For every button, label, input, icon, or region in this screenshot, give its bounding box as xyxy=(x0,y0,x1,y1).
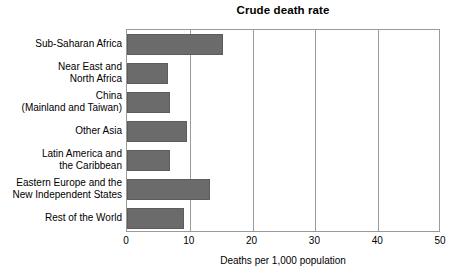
bars-layer xyxy=(127,30,439,231)
bar xyxy=(127,208,184,229)
x-tick-label: 10 xyxy=(183,234,194,247)
plot-area xyxy=(126,29,440,232)
category-label: Near East and North Africa xyxy=(0,61,122,84)
x-tick-label: 20 xyxy=(246,234,257,247)
category-label: Sub-Saharan Africa xyxy=(0,38,122,50)
category-label: Eastern Europe and the New Independent S… xyxy=(0,177,122,200)
crude-death-rate-chart: Crude death rate Sub-Saharan AfricaNear … xyxy=(0,0,454,275)
bar xyxy=(127,34,223,55)
x-tick-label: 40 xyxy=(372,234,383,247)
chart-title: Crude death rate xyxy=(126,3,440,17)
x-tick-label: 0 xyxy=(123,234,129,247)
category-label: China (Mainland and Taiwan) xyxy=(0,90,122,113)
bar xyxy=(127,150,170,171)
x-axis-title: Deaths per 1,000 population xyxy=(126,254,440,267)
bar xyxy=(127,63,168,84)
bar xyxy=(127,121,187,142)
bar xyxy=(127,92,170,113)
category-axis-labels: Sub-Saharan AfricaNear East and North Af… xyxy=(0,29,122,232)
x-axis-tick-labels: 01020304050 xyxy=(126,234,440,250)
category-label: Latin America and the Caribbean xyxy=(0,148,122,171)
x-tick-label: 30 xyxy=(309,234,320,247)
category-label: Rest of the World xyxy=(0,212,122,224)
category-label: Other Asia xyxy=(0,125,122,137)
x-tick-label: 50 xyxy=(434,234,445,247)
bar xyxy=(127,179,210,200)
